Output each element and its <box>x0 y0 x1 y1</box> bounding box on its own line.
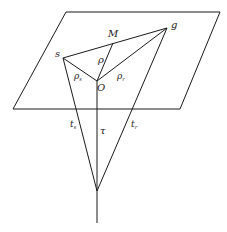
label-O: O <box>97 82 105 93</box>
diagram-canvas: s M g O ρ ρs ρr ts τ tr <box>0 0 227 232</box>
label-t-s: ts <box>70 119 77 130</box>
label-rho-r: ρr <box>116 71 125 82</box>
label-M: M <box>107 28 119 39</box>
label-tau: τ <box>100 125 106 136</box>
label-g: g <box>171 19 177 30</box>
label-rho: ρ <box>97 54 104 65</box>
label-rho-s: ρs <box>73 71 82 82</box>
label-s: s <box>55 48 60 59</box>
reflection-geometry-diagram: s M g O ρ ρs ρr ts τ tr <box>0 0 227 232</box>
plane <box>13 12 220 109</box>
label-t-r: tr <box>131 119 138 130</box>
